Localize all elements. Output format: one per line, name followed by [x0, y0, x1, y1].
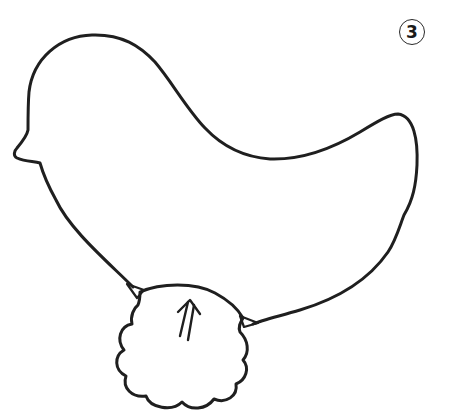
template-canvas: 3 — [0, 0, 451, 418]
double-up-arrow-icon — [178, 300, 200, 340]
pompom-outline — [117, 285, 248, 408]
bird-drawing — [0, 0, 451, 418]
bird-body-outline — [14, 35, 417, 324]
